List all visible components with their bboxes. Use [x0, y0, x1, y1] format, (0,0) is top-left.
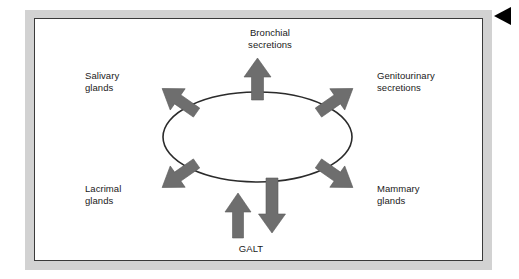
label-lacrimal-glands: Lacrimal glands	[85, 183, 171, 206]
label-genitourinary-secretions: Genitourinary secretions	[377, 70, 487, 93]
triangle-left-icon	[494, 7, 511, 25]
label-bronchial-secretions: Bronchial secretions	[218, 27, 322, 50]
arrow-galt-in	[225, 193, 251, 238]
label-salivary-glands: Salivary glands	[85, 70, 171, 93]
figure-root: Bronchial secretions Salivary glands Gen…	[0, 0, 519, 279]
label-galt: GALT	[205, 243, 297, 255]
label-mammary-glands: Mammary glands	[377, 183, 469, 206]
arrow-down	[259, 178, 286, 233]
